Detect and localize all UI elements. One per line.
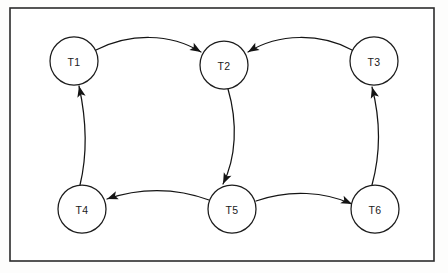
node-t6[interactable]: T6 [351,185,399,233]
node-label: T1 [67,56,80,68]
node-t3[interactable]: T3 [350,37,398,85]
node-label: T4 [75,204,88,216]
task-graph-diagram: T1T2T3T4T5T6 [0,0,448,273]
diagram-canvas: T1T2T3T4T5T6 [0,0,448,273]
node-label: T5 [225,204,238,216]
node-t1[interactable]: T1 [50,37,98,85]
node-label: T2 [217,60,230,72]
node-t2[interactable]: T2 [200,41,248,89]
node-label: T6 [368,204,381,216]
node-label: T3 [367,56,380,68]
node-t5[interactable]: T5 [208,185,256,233]
node-t4[interactable]: T4 [58,185,106,233]
